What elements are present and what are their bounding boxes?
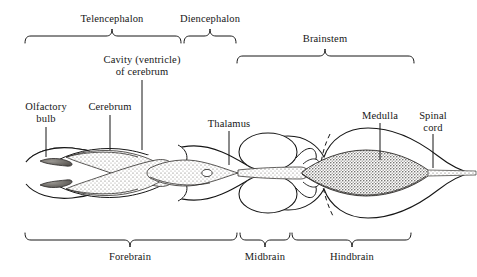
bracket-midbrain [240,233,290,247]
label-diencephalon: Diencephalon [180,13,240,25]
bracket-hindbrain [292,233,411,247]
label-thalamus: Thalamus [208,118,251,130]
cerebral-aqueduct [238,167,308,179]
bracket-telencephalon [25,29,181,43]
optic-lobe-ventral [239,175,297,213]
bracket-forebrain [25,233,237,247]
bottom-brackets-group [25,233,411,247]
label-cerebrum: Cerebrum [88,101,131,113]
central-canal [428,170,476,176]
label-forebrain: Forebrain [109,251,151,263]
label-hindbrain: Hindbrain [330,251,374,263]
label-cavity-ventricle: Cavity (ventricle) of cerebrum [103,54,180,77]
label-spinal-cord: Spinal cord [419,110,447,133]
top-brackets-group [25,29,414,63]
interventricular-foramen [202,169,212,176]
brain-anatomy-figure [0,0,477,277]
label-medulla: Medulla [362,110,398,122]
label-olfactory-bulb: Olfactory bulb [25,101,67,124]
label-midbrain: Midbrain [245,251,285,263]
label-brainstem: Brainstem [303,33,348,45]
bracket-brainstem [237,49,414,63]
bracket-diencephalon [184,29,236,43]
label-telencephalon: Telencephalon [80,13,143,25]
optic-lobe-dorsal [239,133,297,171]
